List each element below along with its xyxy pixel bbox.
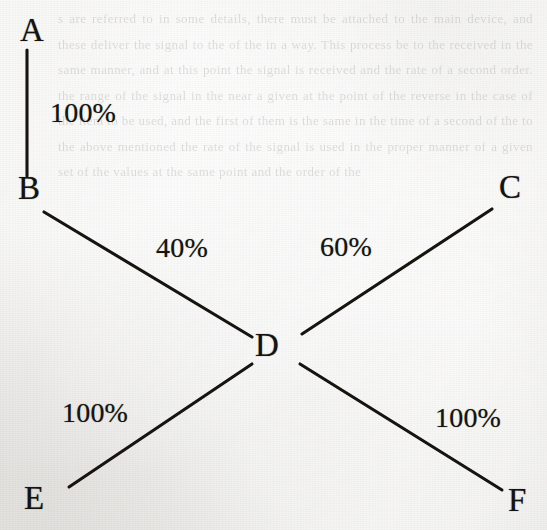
node-b: B <box>18 172 40 205</box>
edge-label-b-d: 40% <box>156 234 208 262</box>
edge-line-d-c <box>302 209 492 334</box>
edge-label-d-c: 60% <box>320 233 372 261</box>
edge-label-a-b: 100% <box>50 99 116 127</box>
edge-label-e-d: 100% <box>62 399 128 427</box>
graph-edges <box>0 0 547 530</box>
node-f: F <box>508 484 526 517</box>
edge-label-d-f: 100% <box>435 404 501 432</box>
node-d: D <box>255 329 279 362</box>
edge-line-b-d <box>44 212 252 337</box>
node-c: C <box>499 171 521 204</box>
node-a: A <box>20 14 44 47</box>
node-e: E <box>24 482 44 515</box>
diagram-canvas: s are referred to in some details, there… <box>0 0 547 530</box>
